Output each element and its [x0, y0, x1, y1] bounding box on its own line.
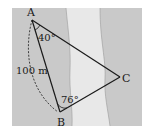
label-angle-b: 76°: [61, 94, 79, 105]
label-point-c: C: [122, 72, 130, 85]
triangle-river-diagram: A B C 40° 76° 100 m: [0, 0, 151, 140]
label-point-b: B: [57, 116, 65, 129]
label-point-a: A: [26, 6, 36, 19]
label-side-ab: 100 m: [16, 65, 48, 76]
label-angle-a: 40°: [38, 32, 56, 43]
